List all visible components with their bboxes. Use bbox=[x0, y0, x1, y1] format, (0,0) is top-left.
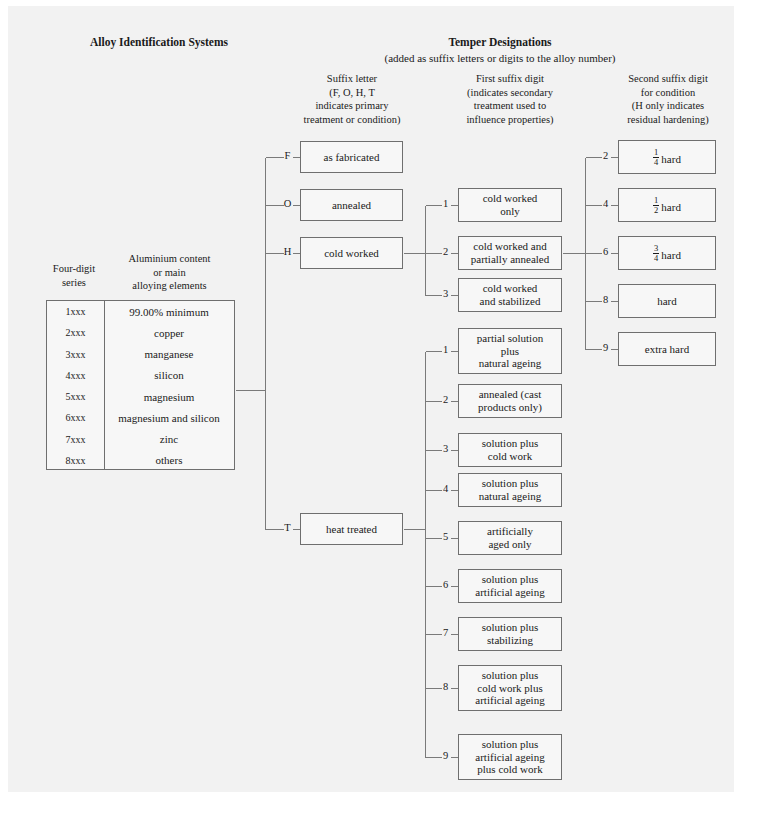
hardness-box-label: extra hard bbox=[645, 343, 689, 356]
fraction-glyph: 12 bbox=[653, 196, 659, 214]
hardness-box-9[interactable]: extra hard bbox=[618, 332, 716, 366]
table-row: 2xxxcopper bbox=[47, 322, 234, 343]
suffix-box-label: cold worked bbox=[324, 247, 379, 260]
alloy-table-header-content: Aluminium content or main alloying eleme… bbox=[103, 252, 236, 293]
column-header-first-digit: First suffix digit (indicates secondary … bbox=[430, 72, 590, 127]
t-box-label: artificially aged only bbox=[487, 525, 533, 551]
suffix-letter-T: T bbox=[283, 522, 292, 533]
t-box-label: solution plus artificial ageing bbox=[475, 573, 544, 599]
suffix-box-label: as fabricated bbox=[324, 151, 380, 164]
table-row: 8xxxothers bbox=[47, 450, 234, 471]
t-digit-9: 9 bbox=[441, 750, 450, 761]
suffix-box-H[interactable]: cold worked bbox=[300, 237, 403, 269]
suffix-box-T[interactable]: heat treated bbox=[300, 513, 403, 545]
fraction-glyph: 14 bbox=[653, 148, 659, 166]
fraction-glyph: 34 bbox=[653, 244, 659, 262]
h-box-1[interactable]: cold worked only bbox=[458, 188, 562, 222]
h-digit-2: 2 bbox=[441, 246, 450, 257]
alloy-series-cell: 7xxx bbox=[47, 434, 104, 445]
table-row: 3xxxmanganese bbox=[47, 344, 234, 365]
h-digit-1: 1 bbox=[441, 198, 450, 209]
alloy-description-cell: manganese bbox=[104, 348, 234, 360]
t-box-3[interactable]: solution plus cold work bbox=[458, 433, 562, 467]
alloy-series-cell: 2xxx bbox=[47, 327, 104, 338]
t-box-label: solution plus stabilizing bbox=[482, 621, 539, 647]
h-digit-3: 3 bbox=[441, 288, 450, 299]
h-box-3[interactable]: cold worked and stabilized bbox=[458, 278, 562, 312]
alloy-series-cell: 4xxx bbox=[47, 370, 104, 381]
hardness-digit-2: 2 bbox=[601, 150, 610, 161]
left-title: Alloy Identification Systems bbox=[90, 36, 228, 50]
table-row: 6xxxmagnesium and silicon bbox=[47, 407, 234, 428]
t-box-9[interactable]: solution plus artificial ageing plus col… bbox=[458, 734, 562, 780]
hardness-box-6[interactable]: 34hard bbox=[618, 236, 716, 270]
hardness-digit-8: 8 bbox=[601, 294, 610, 305]
hardness-digit-4: 4 bbox=[601, 198, 610, 209]
t-digit-7: 7 bbox=[441, 627, 450, 638]
t-box-5[interactable]: artificially aged only bbox=[458, 521, 562, 555]
t-digit-1: 1 bbox=[441, 344, 450, 355]
t-box-label: solution plus cold work plus artificial … bbox=[475, 669, 544, 707]
h-box-label: cold worked only bbox=[483, 192, 538, 218]
hardness-box-8[interactable]: hard bbox=[618, 284, 716, 318]
column-header-suffix-letter: Suffix letter (F, O, H, T indicates prim… bbox=[272, 72, 432, 127]
alloy-series-cell: 1xxx bbox=[47, 306, 104, 317]
t-digit-4: 4 bbox=[441, 483, 450, 494]
t-box-4[interactable]: solution plus natural ageing bbox=[458, 473, 562, 507]
table-row: 5xxxmagnesium bbox=[47, 386, 234, 407]
t-box-label: solution plus cold work bbox=[482, 437, 539, 463]
alloy-series-cell: 5xxx bbox=[47, 391, 104, 402]
alloy-series-cell: 6xxx bbox=[47, 412, 104, 423]
t-digit-3: 3 bbox=[441, 443, 450, 454]
suffix-box-label: heat treated bbox=[326, 523, 377, 536]
alloy-series-table: 1xxx99.00% minimum2xxxcopper3xxxmanganes… bbox=[46, 300, 235, 470]
table-row: 1xxx99.00% minimum bbox=[47, 301, 234, 322]
hardness-box-4[interactable]: 12hard bbox=[618, 188, 716, 222]
t-box-6[interactable]: solution plus artificial ageing bbox=[458, 569, 562, 603]
alloy-description-cell: others bbox=[104, 454, 234, 466]
hardness-box-label: hard bbox=[657, 295, 677, 308]
column-header-second-digit: Second suffix digit for condition (H onl… bbox=[588, 72, 748, 127]
alloy-series-cell: 3xxx bbox=[47, 349, 104, 360]
t-digit-6: 6 bbox=[441, 579, 450, 590]
t-box-8[interactable]: solution plus cold work plus artificial … bbox=[458, 665, 562, 711]
t-box-2[interactable]: annealed (cast products only) bbox=[458, 384, 562, 418]
hardness-box-label: 34hard bbox=[653, 244, 681, 262]
h-box-label: cold worked and stabilized bbox=[480, 282, 541, 308]
alloy-description-cell: magnesium bbox=[104, 391, 234, 403]
t-box-1[interactable]: partial solution plus natural ageing bbox=[458, 328, 562, 374]
hardness-box-2[interactable]: 14hard bbox=[618, 140, 716, 174]
hardness-box-label: 12hard bbox=[653, 196, 681, 214]
suffix-box-O[interactable]: annealed bbox=[300, 189, 403, 221]
right-title: Temper Designations bbox=[340, 36, 660, 50]
t-box-label: partial solution plus natural ageing bbox=[477, 332, 543, 370]
h-box-label: cold worked and partially annealed bbox=[471, 240, 550, 266]
table-row: 7xxxzinc bbox=[47, 429, 234, 450]
suffix-box-label: annealed bbox=[332, 199, 371, 212]
t-box-7[interactable]: solution plus stabilizing bbox=[458, 617, 562, 651]
suffix-letter-O: O bbox=[283, 198, 292, 209]
alloy-description-cell: silicon bbox=[104, 369, 234, 381]
right-subtitle: (added as suffix letters or digits to th… bbox=[310, 52, 690, 65]
alloy-description-cell: copper bbox=[104, 327, 234, 339]
t-box-label: solution plus artificial ageing plus col… bbox=[475, 738, 544, 776]
alloy-table-header-series: Four-digit series bbox=[40, 262, 108, 289]
h-box-2[interactable]: cold worked and partially annealed bbox=[458, 236, 562, 270]
alloy-description-cell: magnesium and silicon bbox=[104, 412, 234, 424]
hardness-box-label: 14hard bbox=[653, 148, 681, 166]
alloy-series-cell: 8xxx bbox=[47, 455, 104, 466]
table-row: 4xxxsilicon bbox=[47, 365, 234, 386]
t-digit-8: 8 bbox=[441, 681, 450, 692]
suffix-box-F[interactable]: as fabricated bbox=[300, 141, 403, 173]
t-digit-5: 5 bbox=[441, 531, 450, 542]
t-box-label: solution plus natural ageing bbox=[479, 477, 542, 503]
alloy-description-cell: zinc bbox=[104, 433, 234, 445]
hardness-digit-6: 6 bbox=[601, 246, 610, 257]
hardness-digit-9: 9 bbox=[601, 342, 610, 353]
t-digit-2: 2 bbox=[441, 394, 450, 405]
suffix-letter-H: H bbox=[283, 246, 292, 257]
t-box-label: annealed (cast products only) bbox=[478, 388, 542, 414]
alloy-description-cell: 99.00% minimum bbox=[104, 306, 234, 318]
suffix-letter-F: F bbox=[283, 150, 292, 161]
